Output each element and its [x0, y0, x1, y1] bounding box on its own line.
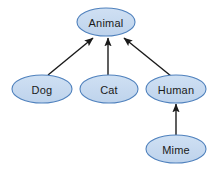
node-animal-label: Animal [89, 17, 124, 29]
edge-human-to-animal [124, 38, 171, 76]
node-mime[interactable]: Mime [146, 135, 206, 163]
node-human-label: Human [158, 84, 194, 96]
node-animal[interactable]: Animal [77, 8, 135, 36]
node-dog[interactable]: Dog [12, 75, 72, 103]
node-dog-label: Dog [32, 84, 53, 96]
diagram-canvas: Animal Dog Cat Human Mime [0, 0, 218, 178]
inheritance-diagram: Animal Dog Cat Human Mime [0, 0, 218, 178]
node-cat[interactable]: Cat [80, 75, 138, 103]
node-cat-label: Cat [100, 84, 118, 96]
node-mime-label: Mime [162, 144, 190, 156]
edge-dog-to-animal [48, 38, 93, 75]
node-human[interactable]: Human [146, 75, 206, 103]
